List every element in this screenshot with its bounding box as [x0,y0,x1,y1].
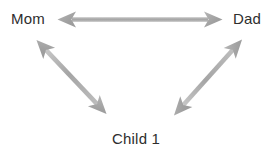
node-label-child-1: Child 1 [112,131,160,146]
edge-dad-child [168,34,248,121]
edge-mom-child [31,34,113,119]
edge-dad-child-shaft [182,48,235,106]
node-label-mom: Mom [11,11,45,26]
edge-mom-child-shaft [44,49,98,106]
diagram-canvas: Mom Dad Child 1 [0,0,278,153]
edge-mom-dad [58,11,223,27]
edge-mom-dad-shaft [72,17,208,22]
node-label-dad: Dad [233,11,261,26]
